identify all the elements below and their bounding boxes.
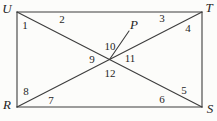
angle-label-11: 11 — [125, 53, 136, 64]
angle-label-5: 5 — [181, 85, 187, 96]
geometry-figure: U T R S P 1 2 3 4 5 6 7 8 9 10 11 12 — [0, 0, 217, 121]
vertex-label-s: S — [207, 102, 214, 115]
angle-label-12: 12 — [105, 68, 116, 79]
angle-label-8: 8 — [23, 86, 29, 97]
angle-label-9: 9 — [89, 54, 95, 65]
vertex-label-u: U — [2, 2, 11, 15]
angle-label-2: 2 — [59, 14, 65, 25]
angle-label-6: 6 — [159, 94, 165, 105]
figure-canvas — [0, 0, 217, 121]
angle-label-7: 7 — [48, 95, 54, 106]
angle-label-4: 4 — [185, 23, 191, 34]
vertex-label-t: T — [205, 1, 212, 14]
vertex-label-r: R — [3, 98, 11, 111]
angle-label-1: 1 — [22, 20, 28, 31]
angle-label-3: 3 — [159, 13, 165, 24]
angle-label-10: 10 — [105, 41, 116, 52]
point-label-p: P — [130, 18, 138, 31]
